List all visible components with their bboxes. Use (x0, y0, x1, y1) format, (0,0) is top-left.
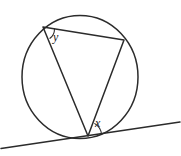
tangent-line (1, 122, 180, 149)
circle-shape (22, 16, 138, 139)
geometry-figure: y x (0, 0, 181, 156)
geometry-canvas: y x (0, 0, 181, 156)
angle-label-x: x (94, 116, 101, 130)
angle-label-y: y (52, 30, 59, 44)
